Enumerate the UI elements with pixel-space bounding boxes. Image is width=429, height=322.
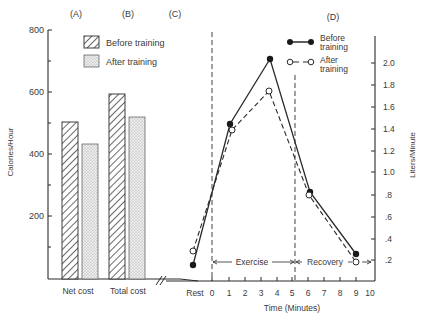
x-tick: 9 — [354, 288, 359, 298]
bar-net-after — [82, 144, 98, 279]
right-y-tick: 1.4 — [383, 124, 395, 134]
legend-label-after-line-2: training — [320, 64, 348, 74]
legend-label-before-bar: Before training — [106, 38, 165, 48]
left-y-ticks — [48, 30, 52, 247]
x-tick: 0 — [210, 288, 215, 298]
data-point — [306, 192, 312, 198]
x-tick: 6 — [306, 288, 311, 298]
recovery-label: Recovery — [307, 257, 344, 267]
legend-swatch-before-bar — [84, 36, 99, 48]
x-tick: 5 — [290, 288, 295, 298]
left-y-tick-400: 400 — [29, 149, 44, 159]
before-training-line — [193, 59, 356, 265]
bar-chart: 800 600 400 200 Calories/Hour Net cost T… — [6, 25, 180, 296]
legend-swatch-after-bar — [84, 55, 99, 67]
after-training-points — [190, 88, 359, 265]
legend-before-line — [287, 39, 314, 45]
right-y-ticks — [371, 63, 375, 260]
x-tick: 4 — [275, 288, 280, 298]
left-y-label: Calories/Hour — [6, 127, 15, 176]
right-y-tick: .4 — [385, 234, 392, 244]
data-point — [267, 56, 273, 62]
after-training-line — [193, 91, 356, 262]
bar-total-before — [109, 94, 125, 279]
right-y-tick: 1.6 — [383, 102, 395, 112]
right-y-tick: 1.2 — [383, 146, 395, 156]
chart-figure: (A) (B) (C) (D) 800 600 400 200 Calories… — [0, 0, 429, 322]
right-y-tick-labels: 2.0 1.8 1.6 1.4 1.2 1.0 .8 .6 .4 .2 — [383, 58, 395, 265]
category-net-cost: Net cost — [62, 286, 94, 296]
right-y-tick: .8 — [385, 190, 392, 200]
x-ticks — [212, 277, 356, 281]
x-tick: 3 — [259, 288, 264, 298]
data-point — [190, 262, 196, 268]
x-tick: 2 — [243, 288, 248, 298]
x-axis-label: Time (Minutes) — [264, 303, 321, 313]
data-point — [190, 248, 196, 254]
data-point — [353, 259, 359, 265]
exercise-label: Exercise — [236, 257, 269, 267]
x-tick: 10 — [365, 288, 375, 298]
legend-label-after-bar: After training — [106, 57, 157, 67]
panel-label-a: (A) — [70, 9, 82, 19]
data-point — [266, 88, 272, 94]
bar-net-before — [62, 122, 78, 279]
before-training-points — [190, 56, 359, 268]
right-y-tick: 2.0 — [383, 58, 395, 68]
x-tick-labels: Rest 0 1 2 3 4 5 6 7 8 9 10 — [186, 288, 375, 298]
left-y-tick-200: 200 — [29, 211, 44, 221]
panel-label-b: (B) — [122, 9, 134, 19]
data-point — [353, 251, 359, 257]
right-y-tick: 1.8 — [383, 80, 395, 90]
x-tick: 7 — [322, 288, 327, 298]
left-y-tick-800: 800 — [29, 25, 44, 35]
panel-label-c: (C) — [169, 9, 182, 19]
x-tick: Rest — [186, 288, 204, 298]
line-chart: 2.0 1.8 1.6 1.4 1.2 1.0 .8 .6 .4 .2 Lite… — [166, 32, 417, 313]
left-y-tick-600: 600 — [29, 87, 44, 97]
panel-label-d: (D) — [327, 12, 340, 22]
right-y-tick: 1.0 — [383, 167, 395, 177]
x-tick: 1 — [227, 288, 232, 298]
right-y-tick: .6 — [385, 212, 392, 222]
data-point — [229, 127, 235, 133]
right-y-tick: .2 — [385, 255, 392, 265]
category-total-cost: Total cost — [110, 286, 147, 296]
right-y-label: Liters/Minute — [408, 132, 417, 178]
legend-after-line — [287, 59, 314, 65]
legend-label-before-line-2: training — [320, 42, 348, 52]
bar-total-after — [129, 117, 145, 279]
x-tick: 8 — [338, 288, 343, 298]
data-point — [227, 121, 233, 127]
